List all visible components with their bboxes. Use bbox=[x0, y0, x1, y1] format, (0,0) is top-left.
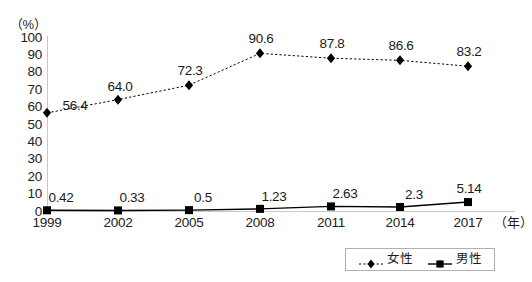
data-point-女性-2017 bbox=[464, 61, 472, 71]
data-point-女性-2014 bbox=[396, 55, 404, 65]
data-label-男性-2005: 0.5 bbox=[194, 191, 212, 205]
line-chart: （%） 1009080706050403020100 （年） 199920022… bbox=[0, 0, 532, 282]
legend-entry-女性[interactable]: 女性 bbox=[358, 253, 413, 266]
legend-label: 女性 bbox=[387, 253, 413, 266]
data-label-女性-2008: 90.6 bbox=[248, 32, 273, 46]
data-label-男性-2008: 1.23 bbox=[261, 190, 286, 204]
data-label-男性-1999: 0.42 bbox=[48, 191, 73, 205]
data-point-男性-2005 bbox=[185, 206, 193, 214]
chart-legend: 女性男性 bbox=[345, 248, 495, 271]
diamond-marker-icon bbox=[358, 255, 384, 265]
legend-label: 男性 bbox=[456, 253, 482, 266]
data-label-女性-2017: 83.2 bbox=[456, 45, 481, 59]
data-label-男性-2017: 5.14 bbox=[456, 182, 481, 196]
square-marker-icon bbox=[427, 255, 453, 265]
legend-entry-男性[interactable]: 男性 bbox=[427, 253, 482, 266]
data-point-女性-1999 bbox=[43, 108, 51, 118]
data-point-男性-2017 bbox=[464, 198, 472, 206]
data-point-男性-1999 bbox=[43, 206, 51, 214]
data-label-女性-2014: 86.6 bbox=[388, 39, 413, 53]
data-point-女性-2008 bbox=[256, 48, 264, 58]
data-label-男性-2011: 2.63 bbox=[332, 187, 357, 201]
data-point-男性-2014 bbox=[396, 203, 404, 211]
data-point-女性-2002 bbox=[114, 95, 122, 105]
data-point-男性-2002 bbox=[114, 206, 122, 214]
data-point-男性-2008 bbox=[256, 205, 264, 213]
data-label-女性-2002: 64.0 bbox=[107, 80, 132, 94]
data-point-女性-2011 bbox=[327, 53, 335, 63]
data-label-男性-2002: 0.33 bbox=[119, 191, 144, 205]
data-label-女性-2011: 87.8 bbox=[319, 37, 344, 51]
data-point-男性-2011 bbox=[327, 202, 335, 210]
data-label-女性-1999: 56.4 bbox=[62, 99, 87, 113]
data-label-女性-2005: 72.3 bbox=[177, 64, 202, 78]
data-point-女性-2005 bbox=[185, 80, 193, 90]
data-label-男性-2014: 2.3 bbox=[405, 188, 423, 202]
